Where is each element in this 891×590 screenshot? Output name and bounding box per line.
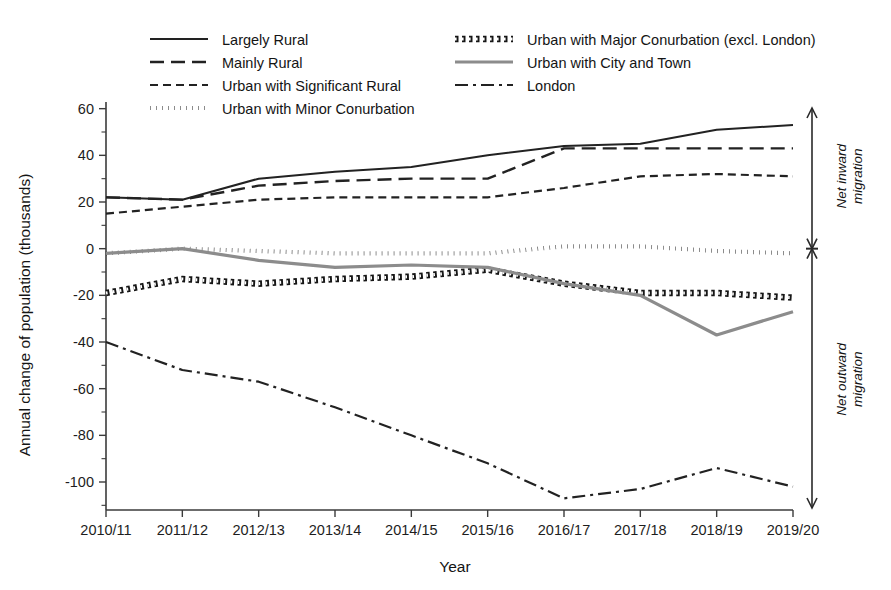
y-tick-label: -80 — [73, 427, 94, 443]
y-tick-label: -40 — [73, 334, 94, 350]
legend-label-3: Urban with Minor Conurbation — [222, 101, 415, 117]
series-line-2 — [106, 174, 793, 214]
y-tick-label: 20 — [78, 194, 94, 210]
series-line-4 — [106, 270, 793, 298]
net-outward-annotation-line2: migration — [850, 352, 865, 408]
legend-label-6: London — [527, 78, 575, 94]
x-tick-label: 2018/19 — [690, 522, 742, 538]
chart-axes: 6040200-20-40-60-80-1002010/112011/12201… — [65, 101, 819, 538]
y-tick-label: -60 — [73, 381, 94, 397]
series-line-0 — [106, 125, 793, 200]
y-tick-label: -100 — [65, 474, 94, 490]
x-axis-title: Year — [439, 558, 470, 575]
net-inward-annotation-line2: migration — [850, 149, 865, 205]
net-inward-annotation-line1: Net inward — [834, 144, 849, 209]
x-tick-label: 2017/18 — [614, 522, 666, 538]
legend-label-1: Mainly Rural — [222, 55, 303, 71]
y-tick-label: 40 — [78, 147, 94, 163]
x-tick-label: 2016/17 — [538, 522, 590, 538]
series-line-5 — [106, 249, 793, 335]
x-tick-label: 2013/14 — [309, 522, 361, 538]
x-tick-label: 2012/13 — [232, 522, 284, 538]
series-line-6 — [106, 342, 793, 498]
chart-annotations: Net inwardmigrationNet outwardmigration — [806, 108, 865, 508]
y-axis-title: Annual change of population (thousands) — [16, 174, 33, 457]
legend-label-0: Largely Rural — [222, 32, 308, 48]
x-tick-label: 2010/11 — [80, 522, 131, 538]
legend-label-4: Urban with Major Conurbation (excl. Lond… — [527, 32, 816, 48]
y-tick-label: 60 — [78, 101, 94, 117]
net-outward-annotation: Net outwardmigration — [834, 342, 865, 415]
y-tick-label: 0 — [86, 241, 94, 257]
x-tick-label: 2011/12 — [157, 522, 208, 538]
y-tick-label: -20 — [73, 287, 94, 303]
legend-label-2: Urban with Significant Rural — [222, 78, 401, 94]
x-tick-label: 2019/20 — [767, 522, 819, 538]
chart-svg: Largely RuralMainly RuralUrban with Sign… — [0, 0, 891, 590]
net-inward-annotation: Net inwardmigration — [834, 144, 865, 209]
x-tick-label: 2015/16 — [461, 522, 513, 538]
legend-label-5: Urban with City and Town — [527, 55, 691, 71]
migration-line-chart: Largely RuralMainly RuralUrban with Sign… — [0, 0, 891, 590]
chart-legend: Largely RuralMainly RuralUrban with Sign… — [150, 32, 816, 117]
x-tick-label: 2014/15 — [385, 522, 437, 538]
net-outward-annotation-line1: Net outward — [834, 342, 849, 415]
chart-series — [106, 125, 793, 498]
